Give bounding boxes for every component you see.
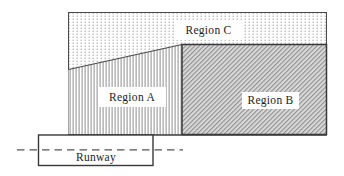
runway-label: Runway — [39, 150, 153, 164]
region-b-label: Region B — [242, 92, 299, 109]
region-b-area — [182, 45, 327, 135]
region-a-label: Region A — [98, 87, 166, 107]
region-c-label: Region C — [175, 20, 242, 40]
runway-regions-diagram: Region C Region A Region B Runway — [0, 0, 344, 176]
